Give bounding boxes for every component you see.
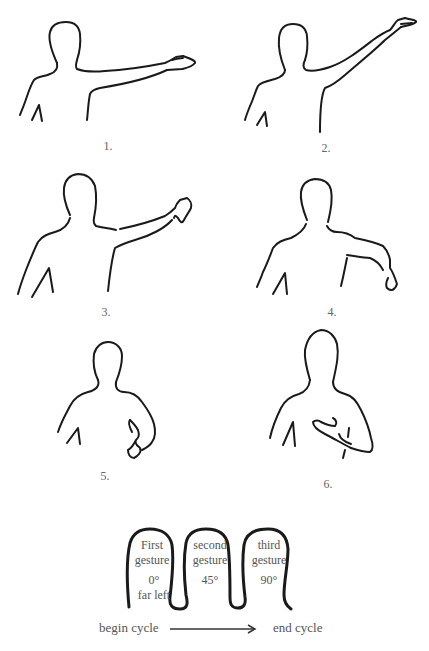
figure-4-drawing (215, 160, 429, 320)
figure-1: 1. (0, 0, 215, 160)
gesture-cycle-diagram: First gesture 0° far left second gesture… (0, 505, 429, 651)
figure-label: 4. (312, 305, 352, 320)
figure-label: 5. (85, 469, 125, 484)
figure-3: 3. (0, 160, 215, 320)
figure-2: 2. (215, 0, 429, 160)
figure-1-drawing (0, 0, 215, 160)
figure-3-drawing (0, 160, 215, 320)
figure-label: 1. (88, 139, 128, 154)
figure-6: 6. (215, 320, 429, 505)
figure-4: 4. (215, 160, 429, 320)
figure-label: 3. (86, 305, 126, 320)
figure-5: 5. (0, 340, 215, 505)
right-arrow-icon (0, 505, 429, 651)
end-cycle-label: end cycle (273, 620, 322, 636)
figure-label: 2. (306, 141, 346, 156)
figure-2-drawing (215, 0, 429, 160)
figure-label: 6. (308, 477, 348, 492)
